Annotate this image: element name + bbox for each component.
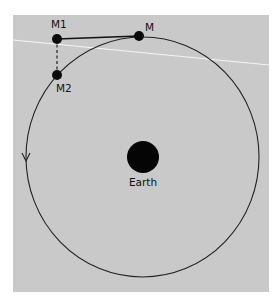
horizon-line [13,40,269,65]
label-m2: M2 [56,82,72,94]
point-m [134,31,144,41]
label-earth: Earth [129,176,157,188]
point-m2 [52,70,62,80]
label-m: M [145,21,154,33]
moon-orbit-diagram: M M1 M2 Earth [0,0,280,307]
earth-disc [127,141,159,173]
label-m1: M1 [51,18,67,30]
point-m1 [52,34,62,44]
